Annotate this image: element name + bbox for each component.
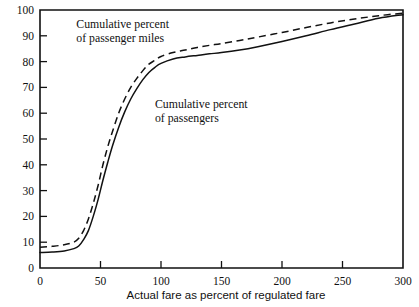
- annotation-line-2: of passenger miles: [76, 31, 164, 45]
- x-tick-label: 100: [152, 275, 170, 287]
- x-tick-label: 150: [213, 275, 231, 287]
- x-axis-title: Actual fare as percent of regulated fare: [127, 289, 326, 301]
- y-tick-label: 0: [28, 262, 34, 274]
- data-series-group: [40, 13, 403, 252]
- cumulative-fare-distribution-chart: 0102030405060708090100 05010015020025030…: [0, 0, 419, 307]
- annotation-line-1: Cumulative percent: [155, 97, 248, 111]
- y-tick-label: 70: [23, 81, 35, 93]
- y-tick-label: 60: [23, 107, 35, 119]
- y-tick-label: 100: [17, 4, 35, 16]
- x-tick-label: 200: [273, 275, 291, 287]
- x-tick-label: 0: [37, 275, 43, 287]
- annotation-line-1: Cumulative percent: [76, 17, 169, 31]
- chart-annotations: Cumulative percentof passenger milesCumu…: [76, 17, 248, 125]
- x-tick-label: 250: [334, 275, 352, 287]
- annotation-line-2: of passengers: [155, 111, 219, 125]
- chart-figure: 0102030405060708090100 05010015020025030…: [0, 0, 419, 307]
- y-tick-label: 20: [23, 210, 35, 222]
- y-tick-label: 10: [23, 236, 35, 248]
- x-axis-ticks: 050100150200250300: [37, 261, 412, 287]
- y-axis-ticks: 0102030405060708090100: [17, 4, 47, 274]
- axes-group: [40, 10, 403, 268]
- axis-frame: [40, 10, 403, 268]
- y-tick-label: 30: [23, 185, 35, 197]
- y-tick-label: 50: [23, 133, 35, 145]
- x-tick-label: 50: [95, 275, 107, 287]
- series-annotation: Cumulative percentof passengers: [155, 97, 248, 125]
- series-annotation: Cumulative percentof passenger miles: [76, 17, 169, 45]
- y-tick-label: 40: [23, 159, 35, 171]
- y-tick-label: 80: [23, 56, 35, 68]
- x-tick-label: 300: [394, 275, 412, 287]
- curve-passengers: [40, 15, 403, 253]
- y-tick-label: 90: [23, 30, 35, 42]
